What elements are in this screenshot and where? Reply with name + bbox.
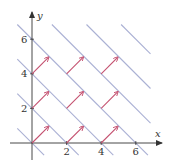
vector-arrow	[32, 127, 48, 143]
vector-arrows	[32, 57, 118, 143]
level-line	[17, 24, 148, 155]
y-axis-label: y	[36, 10, 43, 21]
vector-field-diagram: 2 4 6 2 4 6 x y	[0, 0, 170, 168]
vector-arrow	[67, 92, 83, 108]
vector-arrow	[67, 127, 83, 143]
vector-arrow	[67, 57, 83, 73]
x-tick-label: 2	[64, 146, 70, 157]
vector-arrow	[101, 57, 117, 73]
level-line	[121, 24, 150, 53]
axes: 2 4 6 2 4 6 x y	[10, 10, 162, 160]
y-tick-label: 6	[21, 34, 27, 45]
x-axis-label: x	[155, 128, 161, 139]
vector-arrow	[101, 92, 117, 108]
y-tick-label: 4	[21, 68, 27, 79]
level-lines	[17, 24, 150, 155]
vector-arrow	[101, 127, 117, 143]
x-tick-label: 4	[98, 146, 104, 157]
level-line	[86, 24, 150, 88]
x-tick-label: 6	[133, 146, 139, 157]
vector-arrow	[32, 57, 48, 73]
vector-arrow	[32, 92, 48, 108]
level-line	[17, 128, 44, 155]
y-tick-label: 2	[21, 103, 27, 114]
